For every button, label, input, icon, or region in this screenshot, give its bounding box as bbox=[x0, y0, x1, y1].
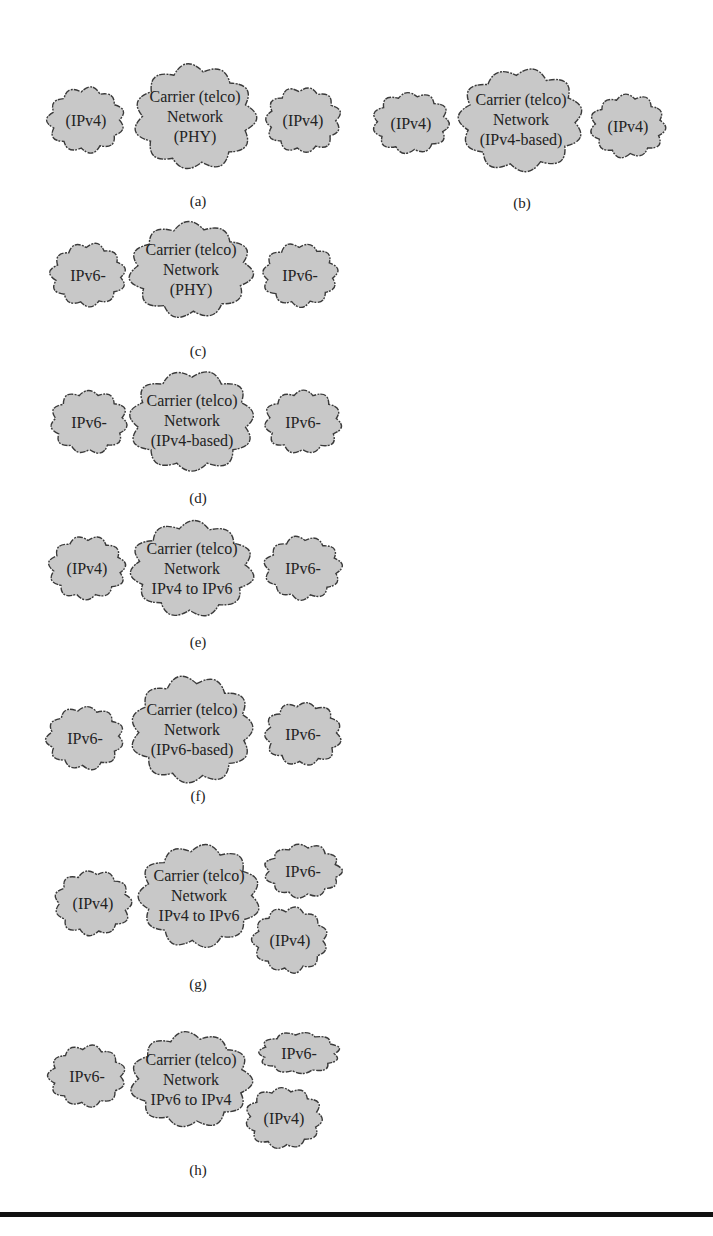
panel-caption: (e) bbox=[190, 634, 207, 651]
cloud-label-line: Carrier (telco) bbox=[149, 87, 240, 107]
cloud-label: (IPv4) bbox=[45, 85, 127, 155]
cloud-label-line: (IPv4) bbox=[283, 111, 324, 130]
cloud-label-line: IPv6- bbox=[285, 413, 321, 432]
endpoint-network-cloud-left: IPv6- bbox=[44, 704, 126, 772]
cloud-label-line: Network bbox=[171, 886, 227, 906]
carrier-network-cloud: Carrier (telco)Network(PHY) bbox=[132, 62, 258, 172]
cloud-label-line: IPv6- bbox=[67, 729, 103, 748]
cloud-label-line: (IPv4) bbox=[73, 894, 114, 913]
cloud-label-line: IPv6- bbox=[70, 266, 106, 285]
cloud-label-line: Carrier (telco) bbox=[146, 391, 237, 411]
cloud-label-line: Carrier (telco) bbox=[475, 90, 566, 110]
endpoint-network-cloud-right: (IPv4) bbox=[263, 85, 343, 155]
cloud-label-line: (IPv4) bbox=[67, 559, 108, 578]
cloud-label-line: Carrier (telco) bbox=[145, 240, 236, 260]
carrier-network-cloud: Carrier (telco)Network(IPv4-based) bbox=[456, 66, 586, 174]
endpoint-network-cloud-left: IPv6- bbox=[46, 1043, 128, 1109]
panel-caption: (a) bbox=[190, 193, 207, 210]
cloud-label: IPv6- bbox=[48, 388, 130, 456]
cloud-label: (IPv4) bbox=[370, 90, 452, 156]
cloud-label: (IPv4) bbox=[588, 92, 668, 160]
cloud-label-line: Network bbox=[163, 260, 219, 280]
cloud-label-line: IPv6 to IPv4 bbox=[151, 1090, 232, 1110]
cloud-label-line: Network bbox=[164, 720, 220, 740]
cloud-label-line: IPv6- bbox=[285, 559, 321, 578]
endpoint-network-cloud-left: (IPv4) bbox=[370, 90, 452, 156]
panel-caption: (h) bbox=[189, 1162, 207, 1179]
cloud-label-line: Network bbox=[167, 107, 223, 127]
cloud-label-line: Carrier (telco) bbox=[146, 700, 237, 720]
endpoint-network-cloud-left: (IPv4) bbox=[52, 868, 134, 938]
cloud-label: IPv6- bbox=[44, 704, 126, 772]
cloud-label: IPv6- bbox=[262, 842, 344, 900]
cloud-label: Carrier (telco)Network(IPv4-based) bbox=[456, 66, 586, 174]
cloud-label-line: Carrier (telco) bbox=[153, 866, 244, 886]
cloud-label-line: Network bbox=[493, 110, 549, 130]
cloud-label: IPv6- bbox=[256, 1030, 342, 1076]
cloud-label-line: Carrier (telco) bbox=[145, 1050, 236, 1070]
cloud-label: Carrier (telco)Network(IPv4-based) bbox=[127, 368, 257, 474]
cloud-label-line: IPv6- bbox=[71, 413, 107, 432]
cloud-label: (IPv4) bbox=[46, 534, 128, 602]
bottom-rule bbox=[0, 1212, 713, 1217]
cloud-label-line: IPv6- bbox=[282, 266, 318, 285]
cloud-label: Carrier (telco)NetworkIPv4 to IPv6 bbox=[128, 519, 256, 619]
cloud-label-line: (IPv4-based) bbox=[480, 130, 563, 150]
cloud-label: Carrier (telco)NetworkIPv4 to IPv6 bbox=[136, 842, 262, 950]
cloud-label: Carrier (telco)Network(IPv6-based) bbox=[128, 674, 256, 786]
cloud-label-line: Network bbox=[164, 559, 220, 579]
cloud-label: (IPv4) bbox=[263, 85, 343, 155]
cloud-label-line: IPv6- bbox=[285, 862, 321, 881]
endpoint-network-cloud-left: (IPv4) bbox=[45, 85, 127, 155]
panel-caption: (f) bbox=[191, 788, 206, 805]
cloud-label-line: Carrier (telco) bbox=[146, 539, 237, 559]
cloud-label-line: (IPv4) bbox=[66, 111, 107, 130]
cloud-label-line: (IPv4-based) bbox=[151, 431, 234, 451]
endpoint-network-cloud-left: IPv6- bbox=[48, 388, 130, 456]
carrier-network-cloud: Carrier (telco)NetworkIPv6 to IPv4 bbox=[128, 1030, 254, 1130]
cloud-label: IPv6- bbox=[262, 700, 344, 768]
endpoint-network-cloud-right-bottom: (IPv4) bbox=[243, 1085, 325, 1151]
cloud-label: IPv6- bbox=[260, 241, 340, 309]
carrier-network-cloud: Carrier (telco)NetworkIPv4 to IPv6 bbox=[136, 842, 262, 950]
cloud-label: (IPv4) bbox=[250, 905, 330, 975]
endpoint-network-cloud-right-bottom: (IPv4) bbox=[250, 905, 330, 975]
panel-caption: (c) bbox=[190, 343, 207, 360]
carrier-network-cloud: Carrier (telco)NetworkIPv4 to IPv6 bbox=[128, 519, 256, 619]
cloud-label-line: (IPv4) bbox=[264, 1109, 305, 1128]
panel-caption: (b) bbox=[513, 195, 531, 212]
panel-caption: (g) bbox=[189, 976, 207, 993]
carrier-network-cloud: Carrier (telco)Network(IPv4-based) bbox=[127, 368, 257, 474]
endpoint-network-cloud-right-top: IPv6- bbox=[256, 1030, 342, 1076]
endpoint-network-cloud-right: IPv6- bbox=[260, 241, 340, 309]
cloud-label-line: (IPv4) bbox=[270, 931, 311, 950]
cloud-label-line: IPv4 to IPv6 bbox=[159, 906, 240, 926]
endpoint-network-cloud-right-top: IPv6- bbox=[262, 842, 344, 900]
cloud-label-line: Network bbox=[163, 1070, 219, 1090]
endpoint-network-cloud-right: IPv6- bbox=[262, 534, 344, 602]
cloud-label: IPv6- bbox=[262, 534, 344, 602]
cloud-label: (IPv4) bbox=[52, 868, 134, 938]
cloud-label-line: (IPv4) bbox=[608, 117, 649, 136]
cloud-label-line: Network bbox=[164, 411, 220, 431]
cloud-label-line: IPv6- bbox=[281, 1044, 317, 1063]
endpoint-network-cloud-right: IPv6- bbox=[262, 388, 344, 456]
cloud-label: IPv6- bbox=[48, 241, 128, 309]
cloud-label: IPv6- bbox=[46, 1043, 128, 1109]
cloud-label: Carrier (telco)NetworkIPv6 to IPv4 bbox=[128, 1030, 254, 1130]
carrier-network-cloud: Carrier (telco)Network(PHY) bbox=[127, 220, 255, 320]
cloud-label-line: (PHY) bbox=[170, 280, 213, 300]
endpoint-network-cloud-left: IPv6- bbox=[48, 241, 128, 309]
endpoint-network-cloud-right: IPv6- bbox=[262, 700, 344, 768]
cloud-label: (IPv4) bbox=[243, 1085, 325, 1151]
endpoint-network-cloud-right: (IPv4) bbox=[588, 92, 668, 160]
panel-caption: (d) bbox=[189, 490, 207, 507]
cloud-label: Carrier (telco)Network(PHY) bbox=[132, 62, 258, 172]
cloud-label: IPv6- bbox=[262, 388, 344, 456]
cloud-label-line: (IPv6-based) bbox=[151, 740, 234, 760]
carrier-network-cloud: Carrier (telco)Network(IPv6-based) bbox=[128, 674, 256, 786]
endpoint-network-cloud-left: (IPv4) bbox=[46, 534, 128, 602]
cloud-label-line: (IPv4) bbox=[391, 114, 432, 133]
cloud-label-line: (PHY) bbox=[174, 127, 217, 147]
cloud-label-line: IPv4 to IPv6 bbox=[152, 579, 233, 599]
